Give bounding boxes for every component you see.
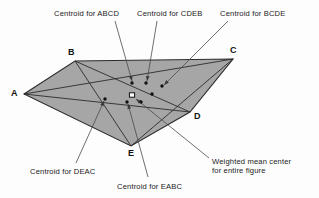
marker-centroid-abcd xyxy=(130,81,133,84)
vertex-label-b: B xyxy=(68,47,75,57)
marker-centroid-eabc xyxy=(125,100,128,103)
vertex-label-a: A xyxy=(11,88,18,98)
callout-line-2: for entire figure xyxy=(212,166,294,175)
callout-label-centroid-abcd: Centroid for ABCD xyxy=(54,9,119,18)
marker-weighted-mean xyxy=(129,93,134,97)
marker-marker-extra-1 xyxy=(150,92,153,95)
vertex-label-e: E xyxy=(128,148,134,158)
marker-marker-extra-2 xyxy=(139,100,142,103)
callout-label-centroid-deac: Centroid for DEAC xyxy=(30,167,95,176)
callout-label-weighted-mean: Weighted mean centerfor entire figure xyxy=(212,157,294,175)
callout-label-centroid-eabc: Centroid for EABC xyxy=(117,182,182,191)
callout-label-centroid-bcde: Centroid for BCDE xyxy=(220,9,285,18)
marker-centroid-bcde xyxy=(160,84,163,87)
vertex-label-d: D xyxy=(194,111,201,121)
vertex-label-c: C xyxy=(230,45,237,55)
marker-centroid-cdeb xyxy=(144,81,147,84)
marker-centroid-deac xyxy=(103,97,106,100)
callout-label-centroid-cdeb: Centroid for CDEB xyxy=(137,9,202,18)
centroid-diagram: ABCDE Centroid for ABCDCentroid for CDEB… xyxy=(0,0,319,198)
callout-line-1: Weighted mean center xyxy=(212,157,294,166)
